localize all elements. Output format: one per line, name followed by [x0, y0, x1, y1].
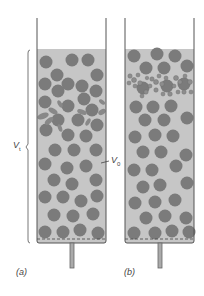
- tube-a: [36, 18, 106, 268]
- tube-b: [125, 18, 196, 268]
- v0-label: V0: [111, 156, 120, 167]
- v1-subscript: t: [19, 146, 21, 152]
- panel-label-b: (b): [124, 268, 135, 277]
- volume-bracket-v1: [26, 50, 30, 243]
- diagram-canvas: [0, 0, 204, 296]
- panel-label-a: (a): [16, 268, 27, 277]
- v0-subscript: 0: [117, 161, 120, 167]
- v1-label: Vt: [13, 141, 21, 152]
